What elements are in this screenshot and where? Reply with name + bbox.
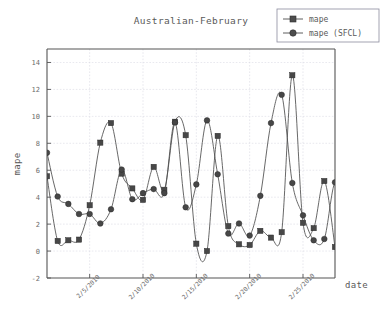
- data-point-marker: [76, 211, 82, 217]
- plot-background: [47, 49, 335, 278]
- data-point-marker: [332, 180, 338, 186]
- data-point-marker: [130, 186, 135, 191]
- y-tick-label: 2: [36, 221, 40, 229]
- data-point-marker: [311, 226, 316, 231]
- data-point-marker: [183, 204, 189, 210]
- data-point-marker: [258, 193, 264, 199]
- data-point-marker: [236, 242, 241, 247]
- data-point-marker: [290, 180, 296, 186]
- data-point-marker: [151, 164, 156, 169]
- data-point-marker: [279, 92, 285, 98]
- data-point-marker: [76, 237, 81, 242]
- data-point-marker: [322, 236, 328, 242]
- data-point-marker: [236, 221, 242, 227]
- data-point-marker: [87, 203, 92, 208]
- y-tick-label: 0: [36, 248, 40, 256]
- circle-marker-icon: [290, 30, 296, 36]
- data-point-marker: [55, 238, 60, 243]
- data-point-marker: [268, 120, 274, 126]
- y-axis-label: mape: [12, 153, 22, 176]
- data-point-marker: [183, 133, 188, 138]
- chart-canvas: -202468101214 2/5/20102/10/20102/15/2010…: [0, 0, 383, 325]
- data-point-marker: [215, 133, 220, 138]
- data-point-marker: [108, 207, 114, 213]
- data-point-marker: [140, 197, 145, 202]
- x-axis-label: date: [345, 280, 368, 290]
- data-point-marker: [162, 190, 168, 196]
- data-point-marker: [98, 140, 103, 145]
- data-point-marker: [108, 120, 113, 125]
- data-point-marker: [66, 238, 71, 243]
- data-point-marker: [44, 150, 50, 156]
- data-point-marker: [279, 230, 284, 235]
- data-point-marker: [151, 186, 157, 192]
- data-point-marker: [215, 171, 221, 177]
- chart-title: Australian-February: [134, 15, 248, 26]
- legend-label-mape-sfcl: mape (SFCL): [309, 29, 362, 38]
- chart-legend[interactable]: mape mape (SFCL): [277, 9, 379, 42]
- y-tick-label: 10: [32, 113, 40, 121]
- data-point-marker: [55, 194, 61, 200]
- data-point-marker: [226, 231, 232, 237]
- chart-figure: -202468101214 2/5/20102/10/20102/15/2010…: [0, 0, 383, 325]
- y-tick-labels: -202468101214: [32, 59, 40, 283]
- data-point-marker: [194, 241, 199, 246]
- data-point-marker: [322, 178, 327, 183]
- data-point-marker: [268, 235, 273, 240]
- y-tick-label: 12: [32, 86, 40, 94]
- data-point-marker: [130, 196, 136, 202]
- data-point-marker: [204, 248, 209, 253]
- data-point-marker: [311, 237, 317, 243]
- data-point-marker: [258, 228, 263, 233]
- data-point-marker: [140, 190, 146, 196]
- y-tick-label: -2: [32, 275, 40, 283]
- y-tick-label: 14: [32, 59, 40, 67]
- y-tick-label: 4: [36, 194, 40, 202]
- square-marker-icon: [290, 16, 296, 22]
- data-point-marker: [343, 204, 349, 210]
- data-point-marker: [247, 233, 253, 239]
- data-point-marker: [87, 211, 93, 217]
- data-point-marker: [98, 221, 104, 227]
- legend-label-mape: mape: [309, 15, 328, 24]
- data-point-marker: [119, 167, 125, 173]
- data-point-marker: [44, 174, 49, 179]
- data-point-marker: [247, 242, 252, 247]
- y-tick-label: 8: [36, 140, 40, 148]
- data-point-marker: [194, 182, 200, 188]
- data-point-marker: [290, 73, 295, 78]
- y-tick-label: 6: [36, 167, 40, 175]
- data-point-marker: [332, 244, 337, 249]
- data-point-marker: [66, 201, 72, 207]
- data-point-marker: [204, 118, 210, 124]
- data-point-marker: [300, 213, 306, 219]
- data-point-marker: [172, 120, 178, 126]
